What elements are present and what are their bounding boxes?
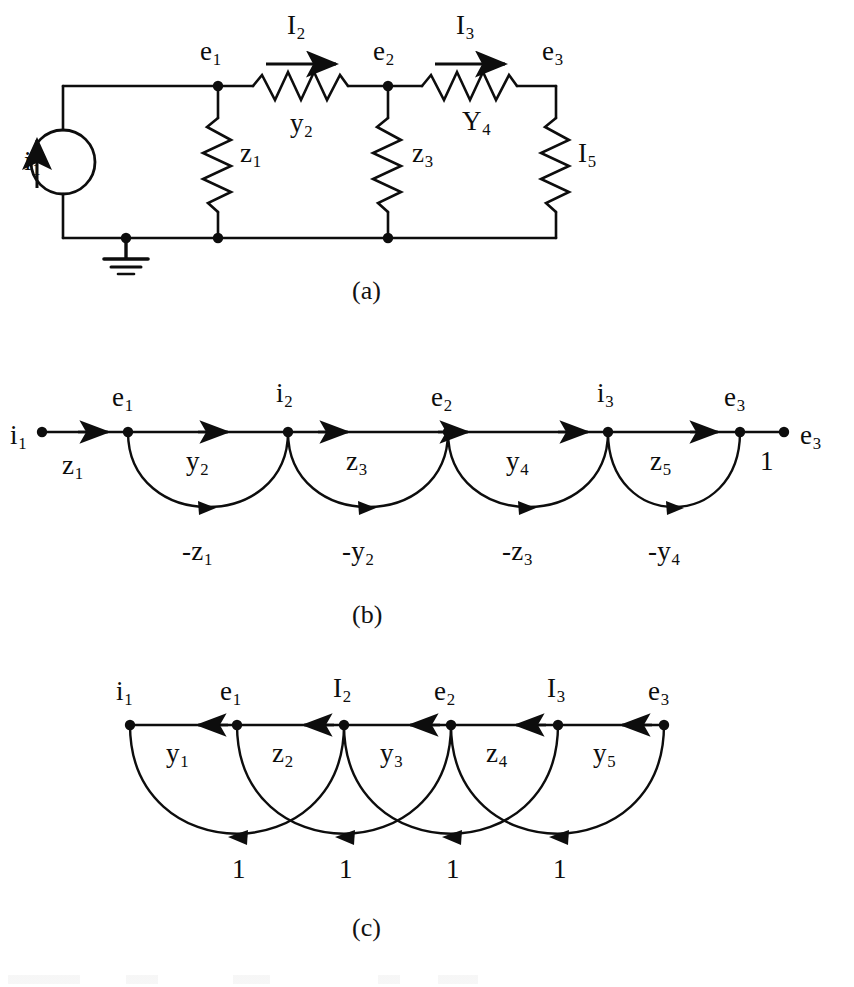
label-current-i2: I2: [287, 12, 305, 39]
panel-a-circuit-diagram: i1 e1 e2 e3 I2 I3 z1 y2 z3 Y4 I5: [0, 0, 854, 330]
label-source-current: i1: [24, 148, 40, 175]
ground-icon: [104, 238, 148, 274]
label-b-feedback-negy2: -y2: [342, 538, 373, 565]
figure-page: i1 e1 e2 e3 I2 I3 z1 y2 z3 Y4 I5: [0, 0, 854, 987]
label-c-node-i1: i1: [116, 678, 132, 705]
label-b-node-i3: i3: [597, 380, 613, 407]
caption-b: (b): [352, 600, 382, 630]
label-element-y2: y2: [290, 110, 312, 137]
label-element-z1: z1: [240, 140, 261, 167]
label-node-e1: e1: [200, 38, 221, 65]
label-node-e3: e3: [542, 38, 563, 65]
label-c-branch-z2: z2: [272, 740, 293, 767]
label-b-feedback-negz1: -z1: [182, 538, 212, 565]
label-element-y4: Y4: [462, 108, 490, 135]
label-current-i3: I3: [456, 12, 474, 39]
label-b-node-e2: e2: [431, 384, 452, 411]
label-b-node-i2: i2: [276, 380, 292, 407]
label-b-feedback-negy4: -y4: [648, 538, 679, 565]
label-b-node-e1: e1: [112, 384, 133, 411]
label-b-branch-y2: y2: [186, 448, 208, 475]
label-c-feedback-one-2: 1: [339, 856, 353, 883]
label-c-branch-y3: y3: [380, 740, 402, 767]
label-c-feedback-one-1: 1: [232, 856, 246, 883]
label-b-node-e3: e3: [724, 384, 745, 411]
label-c-branch-y5: y5: [593, 740, 615, 767]
panel-c-feedback-arrowheads: [228, 830, 569, 845]
label-element-i5: I5: [578, 140, 596, 167]
label-c-branch-y1: y1: [166, 740, 188, 767]
caption-c: (c): [352, 913, 381, 943]
label-b-node-e3-output: e3: [800, 422, 821, 449]
panel-b-feedback-arrowheads: [198, 501, 684, 515]
panel-b-signal-flow-graph: i1 e1 i2 e2 i3 e3 e3 z1 y2 z3 y4: [0, 360, 854, 640]
label-c-node-i2: I2: [333, 675, 351, 702]
label-c-node-i3: I3: [547, 675, 565, 702]
label-c-node-e1: e1: [220, 678, 241, 705]
label-b-branch-y4: y4: [506, 448, 528, 475]
panel-c-signal-flow-graph: i1 e1 I2 e2 I3 e3 y1 z2 y3 z4 y5: [0, 650, 854, 950]
label-node-e2: e2: [373, 38, 394, 65]
label-b-branch-z1: z1: [62, 452, 83, 479]
label-b-branch-z3: z3: [346, 448, 367, 475]
label-c-feedback-one-4: 1: [553, 856, 567, 883]
label-c-feedback-one-3: 1: [446, 856, 460, 883]
label-c-node-e3: e3: [648, 678, 669, 705]
label-element-z3: z3: [412, 140, 433, 167]
label-b-branch-one: 1: [760, 448, 774, 475]
label-b-node-i1: i1: [10, 422, 26, 449]
label-c-node-e2: e2: [434, 678, 455, 705]
caption-a: (a): [352, 276, 381, 306]
label-b-feedback-negz3: -z3: [502, 538, 532, 565]
page-bottom-artifact: [8, 975, 488, 984]
panel-b-feedback-arcs: [128, 432, 740, 507]
label-b-branch-z5: z5: [650, 448, 671, 475]
label-c-branch-z4: z4: [486, 740, 507, 767]
panel-a-wires: [63, 72, 569, 238]
